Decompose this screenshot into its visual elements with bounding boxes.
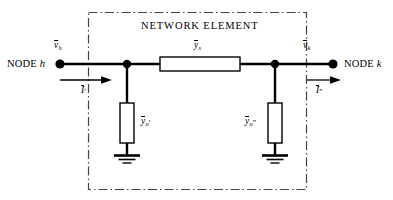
node-h-name: h [40,58,45,69]
shunt-left-admittance-box [120,103,134,143]
series-admittance-label: ys [194,41,201,51]
current-arrow-icon-left [60,76,112,84]
figure-canvas: NETWORK ELEMENT NODE h NODE k vh vk I′ I… [0,0,393,200]
ground-icon-left [114,156,140,164]
voltage-label-h: vh [54,41,62,51]
network-element-title: NETWORK ELEMENT [141,21,259,32]
voltage-h-base: v [54,41,58,51]
shunt-left-base: y [141,117,145,127]
node-k-label: NODE k [344,59,382,70]
series-admittance-base: y [194,41,198,51]
shunt-left-prime: ′ [149,119,151,128]
current-left-prime: ′ [84,88,86,97]
node-h-label: NODE h [7,59,45,70]
voltage-k-sub: k [308,44,311,51]
current-label-right: I″ [316,86,323,97]
ground-icon-right [262,156,288,164]
current-right-base: I [316,86,319,96]
voltage-k-base: v [303,41,307,51]
shunt-right-prime: ″ [253,119,256,128]
shunt-right-base: y [245,117,249,127]
shunt-left-admittance-label: yo′ [141,117,151,128]
current-right-prime: ″ [319,88,322,97]
series-admittance-box [160,57,240,71]
voltage-label-k: vk [303,41,310,51]
voltage-h-sub: h [59,44,62,51]
current-arrow-icon-right [307,76,341,84]
current-label-left: I′ [81,86,86,97]
shunt-right-admittance-label: yo″ [245,117,256,128]
node-h-terminal-dot [55,59,64,68]
series-admittance-sub: s [199,44,202,51]
node-k-terminal-dot [328,59,337,68]
node-h-prefix: NODE [7,58,37,69]
node-k-prefix: NODE [344,58,374,69]
node-k-name: k [377,58,382,69]
current-left-base: I [81,86,84,96]
shunt-right-admittance-box [268,103,282,143]
